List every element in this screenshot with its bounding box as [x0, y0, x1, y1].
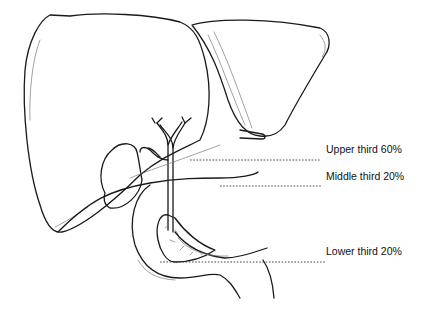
label-lower-third: Lower third 20%	[326, 245, 402, 257]
duodenum	[132, 185, 274, 298]
label-upper-third: Upper third 60%	[326, 143, 402, 155]
label-middle-third: Middle third 20%	[326, 170, 404, 182]
liver-left-lobe	[192, 20, 329, 139]
bile-duct-anatomy-diagram	[0, 0, 421, 316]
pancreas-head	[157, 215, 215, 262]
